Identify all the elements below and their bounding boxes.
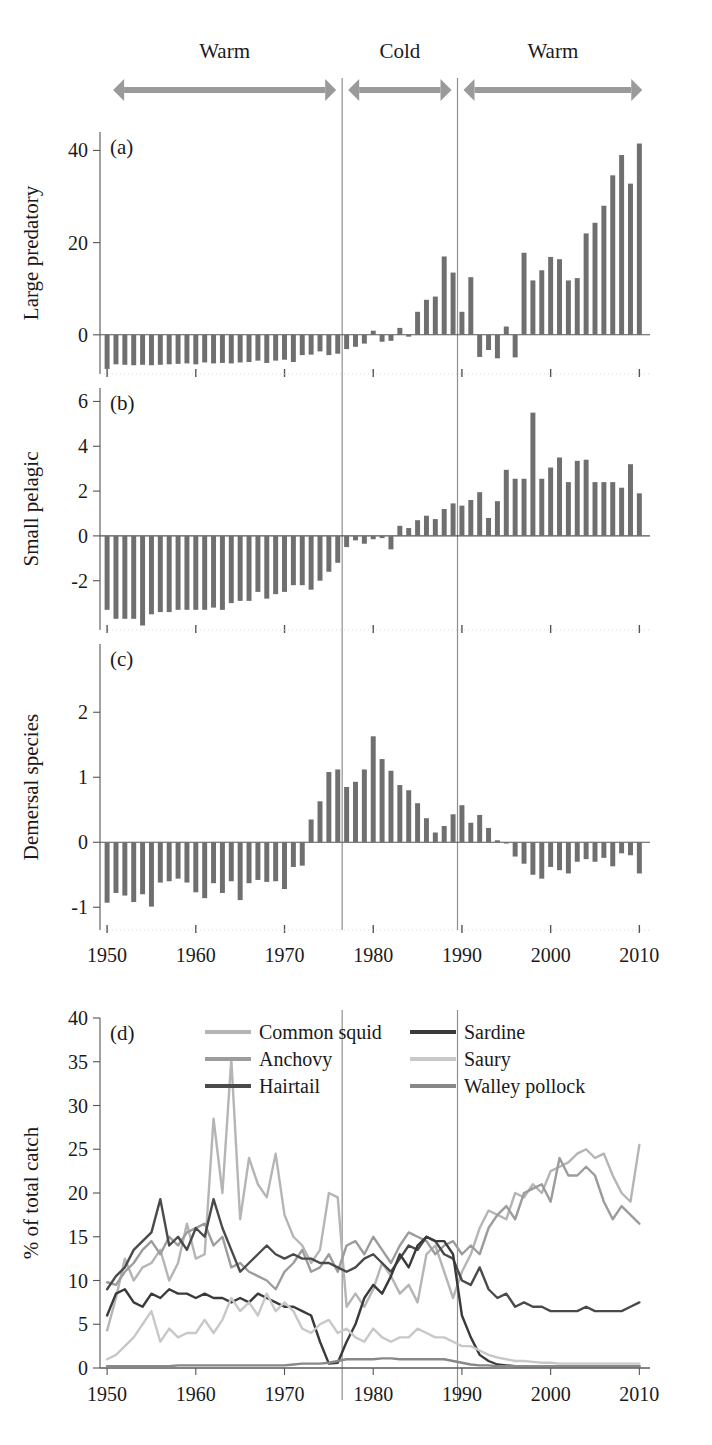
- bar: [211, 335, 216, 364]
- x-tick-label: 1980: [353, 1383, 393, 1405]
- y-tick-label: 40: [68, 139, 88, 161]
- bar: [451, 273, 456, 335]
- bar: [282, 536, 287, 592]
- bar: [362, 335, 367, 344]
- bar: [504, 327, 509, 335]
- bar: [193, 842, 198, 892]
- y-tick-label: 20: [68, 232, 88, 254]
- bar: [353, 782, 358, 842]
- bar: [610, 482, 615, 536]
- bar: [575, 842, 580, 862]
- bar: [601, 482, 606, 536]
- phase-arrow-2: [464, 79, 643, 101]
- bar: [353, 335, 358, 347]
- bar: [442, 509, 447, 536]
- bar: [255, 536, 260, 592]
- bar: [184, 335, 189, 364]
- bar: [300, 842, 305, 865]
- bar: [158, 536, 163, 612]
- multi-panel-figure: WarmColdWarm02040(a)Large predatory-2024…: [0, 0, 712, 1445]
- bar: [247, 335, 252, 362]
- bar: [158, 335, 163, 365]
- bar: [433, 519, 438, 536]
- bar: [628, 464, 633, 536]
- bar: [566, 280, 571, 334]
- bar: [300, 335, 305, 355]
- bar: [415, 803, 420, 842]
- y-tick-label: 4: [78, 435, 88, 457]
- bar: [593, 482, 598, 536]
- bar: [593, 223, 598, 335]
- bar: [530, 842, 535, 875]
- bar: [318, 801, 323, 842]
- bar: [584, 842, 589, 859]
- bar: [113, 335, 118, 365]
- y-tick-label: 6: [78, 390, 88, 412]
- y-axis-title: % of total catch: [19, 1126, 43, 1259]
- y-axis-title: Demersal species: [19, 714, 43, 860]
- bar: [388, 536, 393, 549]
- bar: [184, 536, 189, 610]
- panel-a: 02040(a)Large predatory: [19, 132, 650, 377]
- panel-label: (d): [110, 1021, 135, 1045]
- bar: [149, 536, 154, 614]
- bar: [628, 184, 633, 335]
- figure-panel-container: WarmColdWarm02040(a)Large predatory-2024…: [0, 0, 712, 1445]
- y-tick-label: 1: [78, 766, 88, 788]
- y-axis-title: Large predatory: [19, 185, 43, 320]
- bar: [637, 493, 642, 536]
- arrow-head-left: [113, 79, 124, 101]
- bar: [371, 736, 376, 842]
- bar: [193, 536, 198, 610]
- y-tick-label: 2: [78, 701, 88, 723]
- bar: [211, 536, 216, 608]
- bar: [122, 536, 127, 619]
- bar: [459, 506, 464, 536]
- bar: [291, 536, 296, 585]
- bar: [318, 335, 323, 352]
- bar: [424, 300, 429, 335]
- y-tick-label: 5: [78, 1313, 88, 1335]
- series-line-4: [107, 1294, 639, 1364]
- x-tick-label: 1980: [353, 944, 393, 966]
- bar: [486, 335, 491, 350]
- bar: [380, 536, 385, 538]
- bar: [344, 335, 349, 349]
- y-tick-label: 0: [78, 1357, 88, 1379]
- bar: [468, 823, 473, 843]
- bar: [504, 470, 509, 536]
- bar: [388, 771, 393, 843]
- bar: [513, 842, 518, 856]
- arrow-head-right: [325, 79, 336, 101]
- bar: [335, 769, 340, 842]
- bar: [397, 328, 402, 335]
- bar: [326, 335, 331, 355]
- bar: [424, 516, 429, 536]
- bar: [504, 842, 509, 843]
- bar: [380, 759, 385, 842]
- bar: [264, 335, 269, 363]
- y-tick-label: 35: [68, 1051, 88, 1073]
- bar: [468, 277, 473, 335]
- bar: [326, 536, 331, 572]
- bar: [522, 479, 527, 536]
- bar: [362, 536, 367, 544]
- bar: [309, 536, 314, 590]
- bar: [388, 335, 393, 341]
- bar: [140, 335, 145, 365]
- x-tick-label: 2000: [531, 944, 571, 966]
- x-tick-label: 2010: [619, 944, 659, 966]
- bar: [486, 828, 491, 842]
- bar: [229, 335, 234, 364]
- bar: [575, 278, 580, 335]
- bar: [495, 840, 500, 842]
- bar: [557, 457, 562, 535]
- x-tick-label: 1960: [176, 1383, 216, 1405]
- bar: [477, 335, 482, 357]
- legend-label-walley-pollock: Walley pollock: [464, 1075, 585, 1098]
- bar: [229, 536, 234, 603]
- bar: [477, 815, 482, 842]
- bar: [637, 144, 642, 335]
- bar: [176, 842, 181, 878]
- bar: [619, 488, 624, 536]
